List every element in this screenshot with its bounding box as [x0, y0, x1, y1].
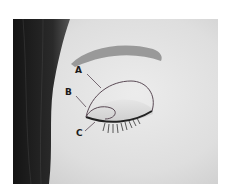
label-a: A [75, 66, 82, 75]
label-c: C [76, 129, 83, 138]
label-b: B [65, 88, 72, 97]
eye-photo: A B C [13, 19, 218, 184]
eye-illustration [13, 19, 218, 184]
